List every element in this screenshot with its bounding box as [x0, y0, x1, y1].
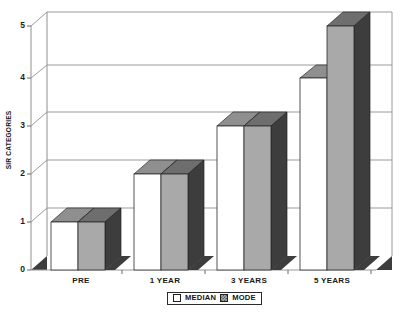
x-axis-labels: PRE 1 YEAR 3 YEARS 5 YEARS	[72, 276, 350, 285]
grid-connector-3	[31, 112, 47, 126]
floor-left-wedge	[31, 256, 47, 270]
grid-connector-5	[31, 12, 47, 26]
legend-swatch-mode-icon	[220, 294, 228, 302]
xtick-label-1year: 1 YEAR	[150, 276, 181, 285]
legend-label-mode: MODE	[232, 294, 256, 302]
bar-group-3years	[217, 112, 297, 270]
ytick-label-1: 1	[20, 216, 25, 226]
ytick-label-5: 5	[20, 20, 25, 30]
bar-group-1year	[134, 160, 214, 270]
ytick-label-3: 3	[20, 120, 25, 130]
ytick-label-2: 2	[20, 168, 25, 178]
floor-right-wedge	[376, 256, 392, 270]
ytick-label-4: 4	[20, 72, 25, 82]
bar-group-5years	[300, 12, 380, 270]
ytick-label-0: 0	[20, 264, 25, 274]
legend-swatch-median-icon	[173, 294, 181, 302]
grid-connector-2	[31, 160, 47, 174]
xtick-label-5years: 5 YEARS	[314, 276, 351, 285]
xtick-label-pre: PRE	[72, 276, 90, 285]
grid-connector-1	[31, 208, 47, 222]
bar-group-pre	[51, 208, 131, 270]
y-axis-title: SIR CATEGORIES	[5, 110, 12, 169]
chart-legend: MEDIAN MODE	[167, 292, 262, 305]
bar-3years-mode	[244, 112, 287, 270]
legend-label-median: MEDIAN	[185, 294, 216, 302]
bar-5years-mode	[327, 12, 370, 270]
bar-1year-mode	[161, 160, 204, 270]
xtick-label-3years: 3 YEARS	[231, 276, 268, 285]
bar-chart-3d: 5 4 3 2 1 0 SIR CATEGORIES	[0, 0, 404, 314]
bar-pre-mode	[78, 208, 121, 270]
x-tick-marks	[122, 270, 371, 274]
grid-connector-4	[31, 65, 47, 78]
y-axis: 5 4 3 2 1 0	[20, 20, 31, 274]
chart-container: 5 4 3 2 1 0 SIR CATEGORIES	[0, 0, 404, 314]
